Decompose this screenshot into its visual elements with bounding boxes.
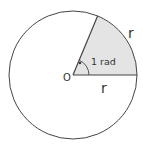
center-label: O xyxy=(63,72,71,83)
radius-label: r xyxy=(101,80,107,96)
radian-diagram: O 1 rad r r xyxy=(0,0,143,161)
arc-label: r xyxy=(128,25,134,41)
angle-label: 1 rad xyxy=(91,56,116,67)
angle-arrow-dot xyxy=(79,62,81,64)
